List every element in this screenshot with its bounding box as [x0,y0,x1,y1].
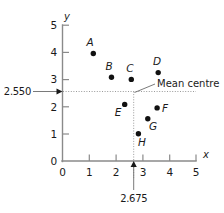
mean-x-value-label: 2.675 [120,193,147,204]
mean-y-pointer [33,88,63,94]
data-point-a[interactable] [91,51,96,56]
y-tick-label-4: 4 [51,46,58,58]
data-point-label-a: A [85,36,93,48]
x-tick-label-3: 3 [140,166,146,178]
data-point-label-g: G [149,120,157,132]
mean-x-pointer [131,161,137,190]
data-point-label-f: F [162,102,169,114]
data-point-b[interactable] [109,75,114,80]
y-tick-label-5: 5 [51,19,57,31]
x-tick-labels: 0 1 2 3 4 5 [59,166,199,178]
data-point-label-c: C [126,62,134,74]
data-point-label-e: E [115,106,122,118]
data-point-label-d: D [153,55,161,67]
y-tick-label-0: 0 [51,155,57,167]
x-tick-label-4: 4 [166,166,173,178]
data-point-d[interactable] [156,70,161,75]
x-tick-label-2: 2 [113,166,119,178]
mean-y-arrowhead [57,88,63,94]
y-axis-label: y [63,11,71,22]
mean-x-arrowhead [131,161,137,167]
x-tick-label-5: 5 [193,166,199,178]
mean-centre-label: Mean centre [157,78,219,89]
x-tick-label-1: 1 [86,166,92,178]
plot-canvas: 5 4 3 2 1 0 0 1 2 3 4 5 y x 2.550 2. [0,0,224,213]
y-axis-ticks [63,25,70,134]
data-point-c[interactable] [129,77,134,82]
mean-y-value-label: 2.550 [4,86,31,97]
y-tick-label-2: 2 [51,101,57,113]
scatter-plot-figure: 5 4 3 2 1 0 0 1 2 3 4 5 y x 2.550 2. [0,0,224,213]
y-tick-label-3: 3 [51,73,57,85]
axes [62,25,196,162]
mean-centre-guides [63,92,196,179]
x-axis-label: x [202,149,209,160]
x-axis-ticks [89,155,196,162]
y-tick-labels: 5 4 3 2 1 0 [51,19,58,167]
data-point-e[interactable] [122,102,127,107]
data-point-labels: A B C D E F G H [85,36,169,148]
x-tick-label-0: 0 [59,166,65,178]
data-point-label-b: B [105,60,112,72]
data-point-label-h: H [138,136,146,148]
data-point-f[interactable] [154,105,159,110]
y-tick-label-1: 1 [51,128,57,140]
